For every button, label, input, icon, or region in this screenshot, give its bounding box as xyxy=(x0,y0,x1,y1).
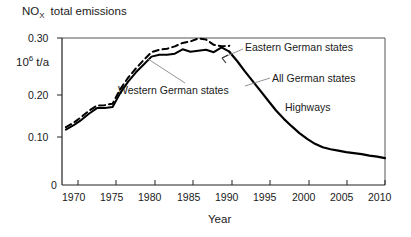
series-line-eastern-german-states xyxy=(66,38,229,127)
series-line-western-german-states xyxy=(66,47,229,129)
chart-plot-svg xyxy=(0,0,411,237)
x-axis-ticks xyxy=(78,180,385,185)
nox-emissions-chart-figure: NOXtotal emissions 106t/a 0.30 0.20 0.10… xyxy=(0,0,411,237)
series-line-all-german-states xyxy=(229,52,385,158)
leader-line-all-german xyxy=(245,78,270,86)
y-axis-ticks xyxy=(57,38,62,137)
leader-line-western xyxy=(148,59,185,83)
